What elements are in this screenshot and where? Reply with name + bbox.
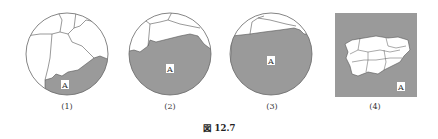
svg-text:A: A — [397, 83, 404, 92]
panel-1-label: (1) — [61, 102, 72, 111]
svg-text:A: A — [267, 57, 274, 66]
svg-text:A: A — [61, 81, 68, 90]
panel-2-map: A — [125, 12, 212, 100]
panel-3-label: (3) — [266, 102, 277, 111]
panel-4-map: A — [335, 13, 417, 97]
figure-canvas: A A A A — [0, 0, 438, 139]
panel-2-label: (2) — [164, 102, 175, 111]
panel-3-map: A — [228, 13, 315, 100]
panel-4-label: (4) — [369, 102, 380, 111]
figure-caption: 図 12.7 — [203, 121, 236, 133]
svg-text:A: A — [166, 65, 173, 74]
panel-1-map: A — [26, 12, 110, 100]
